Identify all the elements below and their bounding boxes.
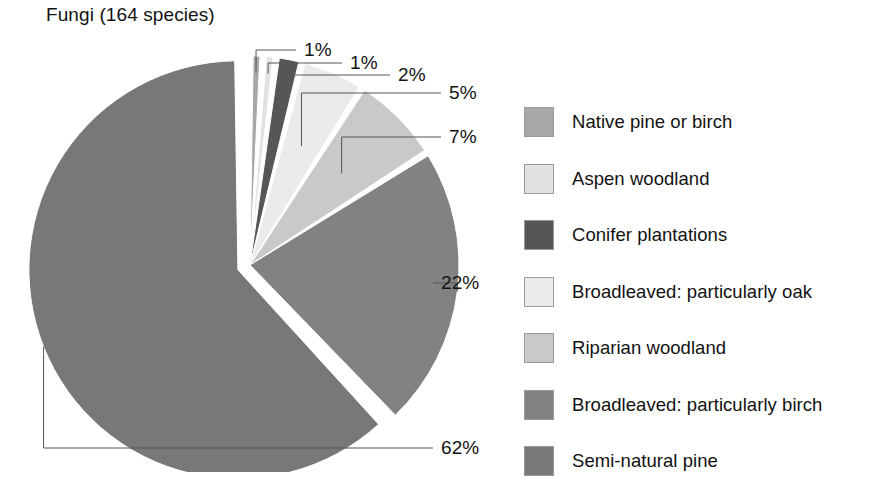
legend-swatch-icon [524,220,554,250]
legend-item[interactable]: Semi-natural pine [524,433,884,480]
slice-value-broadleaved-oak: 5% [449,82,477,104]
slice-value-semi-natural-pine: 62% [441,437,479,459]
slice-value-native-pine-or-birch: 1% [304,39,332,61]
legend-item[interactable]: Native pine or birch [524,94,884,151]
pie-svg [0,0,510,472]
slice-value-aspen-woodland: 1% [350,52,378,74]
legend-item-label: Native pine or birch [572,111,732,133]
slice-value-broadleaved-birch: 22% [441,272,479,294]
legend-item-label: Broadleaved: particularly oak [572,281,812,303]
legend-swatch-icon [524,333,554,363]
legend-item[interactable]: Broadleaved: particularly birch [524,377,884,434]
slice-value-conifer-plantations: 2% [398,64,426,86]
legend-item-label: Conifer plantations [572,224,727,246]
legend-item-label: Aspen woodland [572,168,710,190]
legend-item[interactable]: Conifer plantations [524,207,884,264]
legend: Native pine or birchAspen woodlandConife… [524,94,884,480]
legend-item[interactable]: Riparian woodland [524,320,884,377]
legend-item-label: Riparian woodland [572,337,726,359]
legend-swatch-icon [524,164,554,194]
legend-item[interactable]: Broadleaved: particularly oak [524,264,884,321]
legend-swatch-icon [524,390,554,420]
pie-plot-area: 1% 1% 2% 5% 7% 22% 62% [0,0,510,472]
pie-slice-group [29,56,459,472]
legend-item-label: Broadleaved: particularly birch [572,394,822,416]
legend-swatch-icon [524,277,554,307]
slice-value-riparian-woodland: 7% [449,126,477,148]
legend-swatch-icon [524,446,554,476]
legend-swatch-icon [524,107,554,137]
legend-item[interactable]: Aspen woodland [524,151,884,208]
legend-item-label: Semi-natural pine [572,450,718,472]
